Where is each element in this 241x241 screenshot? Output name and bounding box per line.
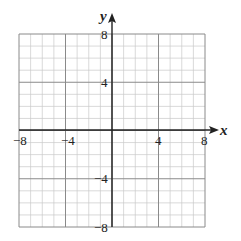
- y-tick-label: 8: [101, 27, 108, 42]
- x-tick-label: 4: [155, 133, 162, 148]
- y-tick-label: −4: [94, 171, 108, 186]
- x-tick-label: −4: [61, 133, 75, 148]
- x-axis-label: x: [219, 122, 228, 138]
- y-tick-label: 4: [101, 75, 108, 90]
- y-tick-label: −8: [94, 220, 108, 235]
- x-tick-label: 8: [201, 133, 208, 148]
- x-tick-label: −8: [13, 133, 27, 148]
- coordinate-plane: x y −8 −4 4 8 8 4 −4 −8: [0, 0, 241, 241]
- y-axis-label: y: [98, 8, 107, 24]
